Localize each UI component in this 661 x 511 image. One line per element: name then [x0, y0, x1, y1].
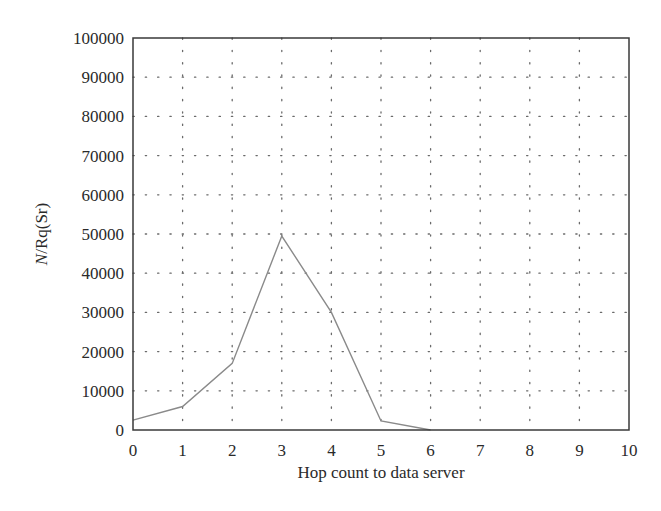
- y-tick-label: 0: [116, 421, 125, 440]
- grid: [133, 38, 629, 430]
- x-tick-label: 2: [228, 441, 237, 460]
- x-axis-ticks: 012345678910: [129, 441, 638, 460]
- y-tick-label: 60000: [82, 186, 125, 205]
- x-tick-label: 7: [476, 441, 485, 460]
- y-tick-label: 30000: [82, 303, 125, 322]
- y-axis-label-rest: /Rq(Sr): [32, 203, 51, 254]
- line-chart-svg: 0100002000030000400005000060000700008000…: [0, 0, 661, 511]
- x-axis-label: Hop count to data server: [297, 463, 464, 482]
- y-tick-label: 20000: [82, 343, 125, 362]
- x-tick-label: 0: [129, 441, 138, 460]
- x-tick-label: 4: [327, 441, 336, 460]
- y-tick-label: 80000: [82, 107, 125, 126]
- chart: 0100002000030000400005000060000700008000…: [0, 0, 661, 511]
- x-tick-label: 9: [575, 441, 584, 460]
- y-tick-label: 40000: [82, 264, 125, 283]
- x-tick-label: 10: [621, 441, 638, 460]
- y-tick-label: 100000: [73, 29, 124, 48]
- y-tick-label: 50000: [82, 225, 125, 244]
- y-tick-label: 10000: [82, 382, 125, 401]
- x-tick-label: 1: [178, 441, 187, 460]
- y-tick-label: 70000: [82, 147, 125, 166]
- x-tick-label: 6: [426, 441, 435, 460]
- y-axis-ticks: 0100002000030000400005000060000700008000…: [73, 29, 124, 440]
- x-tick-label: 3: [278, 441, 287, 460]
- y-axis-label: N/Rq(Sr): [32, 203, 51, 266]
- y-tick-label: 90000: [82, 68, 125, 87]
- x-tick-label: 8: [526, 441, 535, 460]
- x-tick-label: 5: [377, 441, 386, 460]
